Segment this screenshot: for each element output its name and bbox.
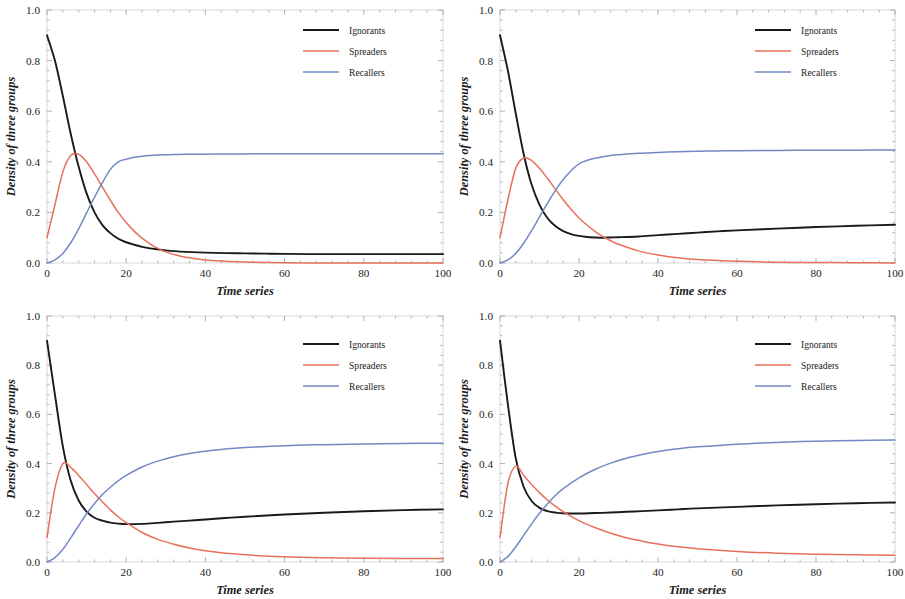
data-curves xyxy=(47,341,443,562)
legend-label-ignorants: Ignorants xyxy=(349,339,386,350)
chart-panel-1: 0204060801000.00.20.40.60.81.0Time serie… xyxy=(0,0,453,300)
x-tick-label: 80 xyxy=(810,566,822,578)
x-tick-label: 60 xyxy=(731,566,743,578)
y-tick-label: 0.6 xyxy=(479,408,493,420)
y-tick-label: 0.4 xyxy=(479,458,493,470)
x-tick-label: 100 xyxy=(887,267,904,279)
x-tick-label: 100 xyxy=(435,566,452,578)
legend-label-recallers: Recallers xyxy=(801,67,837,78)
y-tick-label: 1.0 xyxy=(26,4,40,16)
y-tick-label: 0.4 xyxy=(479,156,493,168)
y-tick-label: 0.6 xyxy=(26,105,40,117)
y-tick-label: 0.0 xyxy=(26,556,40,568)
x-axis-title: Time series xyxy=(669,284,727,298)
y-tick-label: 0.4 xyxy=(26,156,40,168)
series-line-recallers xyxy=(500,440,895,562)
series-line-recallers xyxy=(47,443,443,562)
x-tick-label: 60 xyxy=(731,267,743,279)
y-tick-label: 0.2 xyxy=(479,206,493,218)
x-tick-label: 0 xyxy=(497,267,503,279)
y-tick-label: 0.8 xyxy=(479,359,493,371)
y-tick-label: 1.0 xyxy=(26,310,40,322)
x-tick-label: 40 xyxy=(200,267,212,279)
legend-label-ignorants: Ignorants xyxy=(349,25,386,36)
plot-frame xyxy=(47,316,443,562)
chart-panel-3: 0204060801000.00.20.40.60.81.0Time serie… xyxy=(0,300,453,599)
x-axis-title: Time series xyxy=(669,583,727,597)
x-tick-label: 40 xyxy=(652,566,664,578)
y-tick-label: 0.8 xyxy=(479,55,493,67)
chart-svg-1: 0204060801000.00.20.40.60.81.0Time serie… xyxy=(0,0,453,300)
y-tick-label: 0.6 xyxy=(26,408,40,420)
chart-svg-3: 0204060801000.00.20.40.60.81.0Time serie… xyxy=(0,300,453,599)
x-tick-label: 60 xyxy=(279,566,291,578)
x-tick-label: 0 xyxy=(497,566,503,578)
x-tick-label: 80 xyxy=(358,267,370,279)
x-tick-label: 80 xyxy=(358,566,370,578)
legend-label-recallers: Recallers xyxy=(349,67,385,78)
y-tick-label: 0.2 xyxy=(26,507,40,519)
y-axis-title: Density of three groups xyxy=(457,77,471,198)
tick-labels: 0204060801000.00.20.40.60.81.0 xyxy=(479,310,904,578)
chart-panel-4: 0204060801000.00.20.40.60.81.0Time serie… xyxy=(453,300,905,599)
legend-label-spreaders: Spreaders xyxy=(349,360,387,371)
y-axis-title: Density of three groups xyxy=(4,77,18,198)
series-line-spreaders xyxy=(500,158,895,263)
axis-ticks xyxy=(47,316,443,562)
y-tick-label: 0.0 xyxy=(26,257,40,269)
legend-label-ignorants: Ignorants xyxy=(801,25,838,36)
legend: IgnorantsSpreadersRecallers xyxy=(303,25,387,78)
x-tick-label: 0 xyxy=(44,566,50,578)
legend-label-recallers: Recallers xyxy=(349,381,385,392)
y-tick-label: 1.0 xyxy=(479,4,493,16)
y-axis-title: Density of three groups xyxy=(457,379,471,500)
x-tick-label: 100 xyxy=(887,566,904,578)
y-tick-label: 0.6 xyxy=(479,105,493,117)
x-tick-label: 40 xyxy=(200,566,212,578)
plot-frame xyxy=(500,316,895,562)
legend: IgnorantsSpreadersRecallers xyxy=(755,25,839,78)
chart-svg-2: 0204060801000.00.20.40.60.81.0Time serie… xyxy=(453,0,905,299)
x-tick-label: 20 xyxy=(573,566,585,578)
x-tick-label: 100 xyxy=(435,267,452,279)
y-axis-title: Density of three groups xyxy=(4,379,18,500)
data-curves xyxy=(500,341,895,562)
y-tick-label: 0.2 xyxy=(26,206,40,218)
series-line-recallers xyxy=(47,154,443,263)
x-tick-label: 20 xyxy=(121,267,133,279)
legend-label-ignorants: Ignorants xyxy=(801,339,838,350)
y-tick-label: 0.8 xyxy=(26,359,40,371)
y-tick-label: 0.2 xyxy=(479,507,493,519)
x-tick-label: 0 xyxy=(44,267,50,279)
tick-labels: 0204060801000.00.20.40.60.81.0 xyxy=(26,4,452,279)
series-line-spreaders xyxy=(500,466,895,555)
y-tick-label: 0.0 xyxy=(479,556,493,568)
series-line-recallers xyxy=(500,150,895,263)
legend: IgnorantsSpreadersRecallers xyxy=(303,339,387,392)
legend-label-spreaders: Spreaders xyxy=(801,360,839,371)
chart-svg-4: 0204060801000.00.20.40.60.81.0Time serie… xyxy=(453,300,905,599)
chart-panel-2: 0204060801000.00.20.40.60.81.0Time serie… xyxy=(453,0,905,300)
legend-label-spreaders: Spreaders xyxy=(349,46,387,57)
x-tick-label: 60 xyxy=(279,267,291,279)
x-tick-label: 20 xyxy=(573,267,585,279)
y-tick-label: 0.4 xyxy=(26,458,40,470)
x-axis-title: Time series xyxy=(216,583,274,597)
legend: IgnorantsSpreadersRecallers xyxy=(755,339,839,392)
legend-label-spreaders: Spreaders xyxy=(801,46,839,57)
x-tick-label: 40 xyxy=(652,267,664,279)
axis-ticks xyxy=(500,316,895,562)
y-tick-label: 0.0 xyxy=(479,257,493,269)
legend-label-recallers: Recallers xyxy=(801,381,837,392)
x-tick-label: 20 xyxy=(121,566,133,578)
y-tick-label: 1.0 xyxy=(479,310,493,322)
y-tick-label: 0.8 xyxy=(26,55,40,67)
x-axis-title: Time series xyxy=(216,284,274,298)
x-tick-label: 80 xyxy=(810,267,822,279)
tick-labels: 0204060801000.00.20.40.60.81.0 xyxy=(479,4,904,279)
series-line-spreaders xyxy=(47,153,443,263)
figure-grid: 0204060801000.00.20.40.60.81.0Time serie… xyxy=(0,0,905,599)
